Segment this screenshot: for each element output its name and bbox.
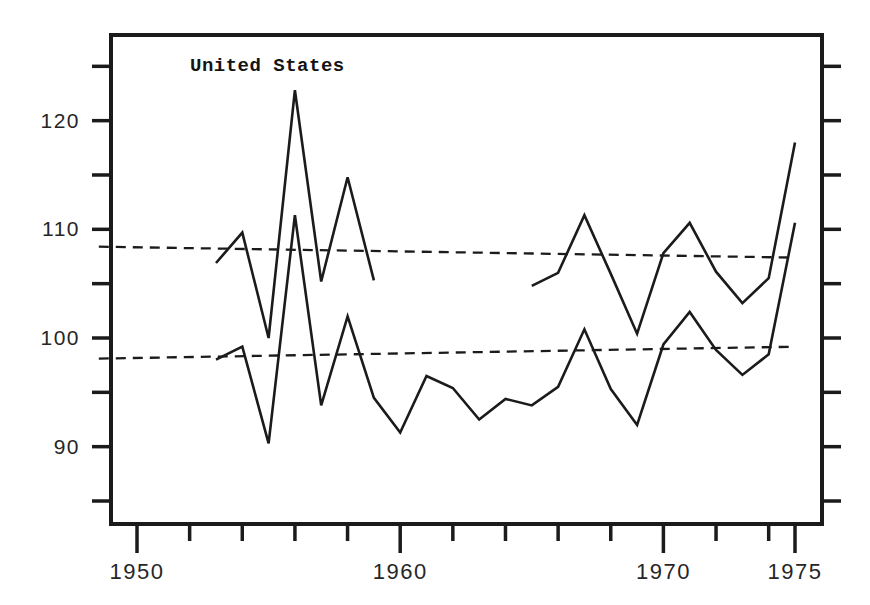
y-tick-label: 90 bbox=[54, 435, 80, 458]
axis-tick-labels: 901001101201950196019701975 bbox=[40, 109, 822, 584]
upper-early-series-line bbox=[216, 90, 374, 338]
y-tick-label: 100 bbox=[40, 326, 80, 349]
line-chart: 901001101201950196019701975 United State… bbox=[0, 0, 870, 605]
y-tick-label: 110 bbox=[42, 217, 80, 240]
scanned-chart-page: 901001101201950196019701975 United State… bbox=[0, 0, 870, 605]
x-tick-label: 1960 bbox=[373, 559, 428, 584]
upper-trend-dashline bbox=[99, 247, 795, 258]
x-tick-label: 1950 bbox=[110, 559, 165, 584]
axis-ticks bbox=[92, 66, 841, 553]
y-tick-label: 120 bbox=[40, 109, 80, 132]
data-series bbox=[99, 90, 795, 443]
plot-frame bbox=[111, 35, 822, 524]
lower-trend-dashline bbox=[99, 347, 795, 359]
x-tick-label: 1970 bbox=[636, 559, 691, 584]
x-tick-label: 1975 bbox=[768, 559, 823, 584]
upper-late-series-line bbox=[532, 142, 795, 333]
chart-title: United States bbox=[190, 55, 345, 77]
